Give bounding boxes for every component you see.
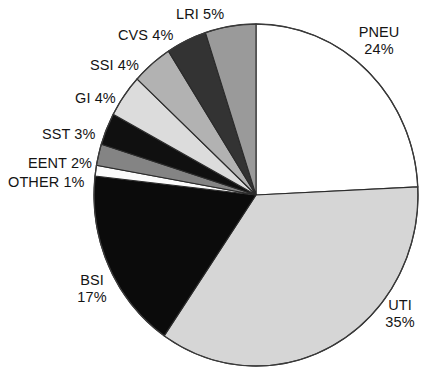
pie-slices-group [94, 24, 418, 366]
pie-chart: PNEU 24% UTI 35% BSI 17% LRI 5% CVS 4% S… [0, 0, 435, 383]
slice-label-bsi-name: BSI [63, 272, 121, 289]
slice-label-ssi: SSI 4% [90, 57, 139, 74]
slice-label-uti: UTI 35% [372, 297, 428, 330]
slice-label-bsi-percent: 17% [63, 289, 121, 306]
slice-label-bsi: BSI 17% [63, 272, 121, 305]
slice-label-other: OTHER 1% [8, 174, 85, 191]
slice-label-lri: LRI 5% [176, 6, 224, 23]
slice-label-eent: EENT 2% [28, 155, 92, 172]
slice-label-cvs: CVS 4% [118, 27, 173, 44]
slice-label-gi: GI 4% [75, 90, 116, 107]
slice-label-pneu: PNEU 24% [348, 24, 410, 57]
pie-chart-graphic [0, 0, 435, 383]
slice-label-uti-percent: 35% [372, 314, 428, 331]
slice-label-sst: SST 3% [42, 126, 96, 143]
slice-label-pneu-name: PNEU [348, 24, 410, 41]
slice-label-pneu-percent: 24% [348, 41, 410, 58]
slice-label-uti-name: UTI [372, 297, 428, 314]
